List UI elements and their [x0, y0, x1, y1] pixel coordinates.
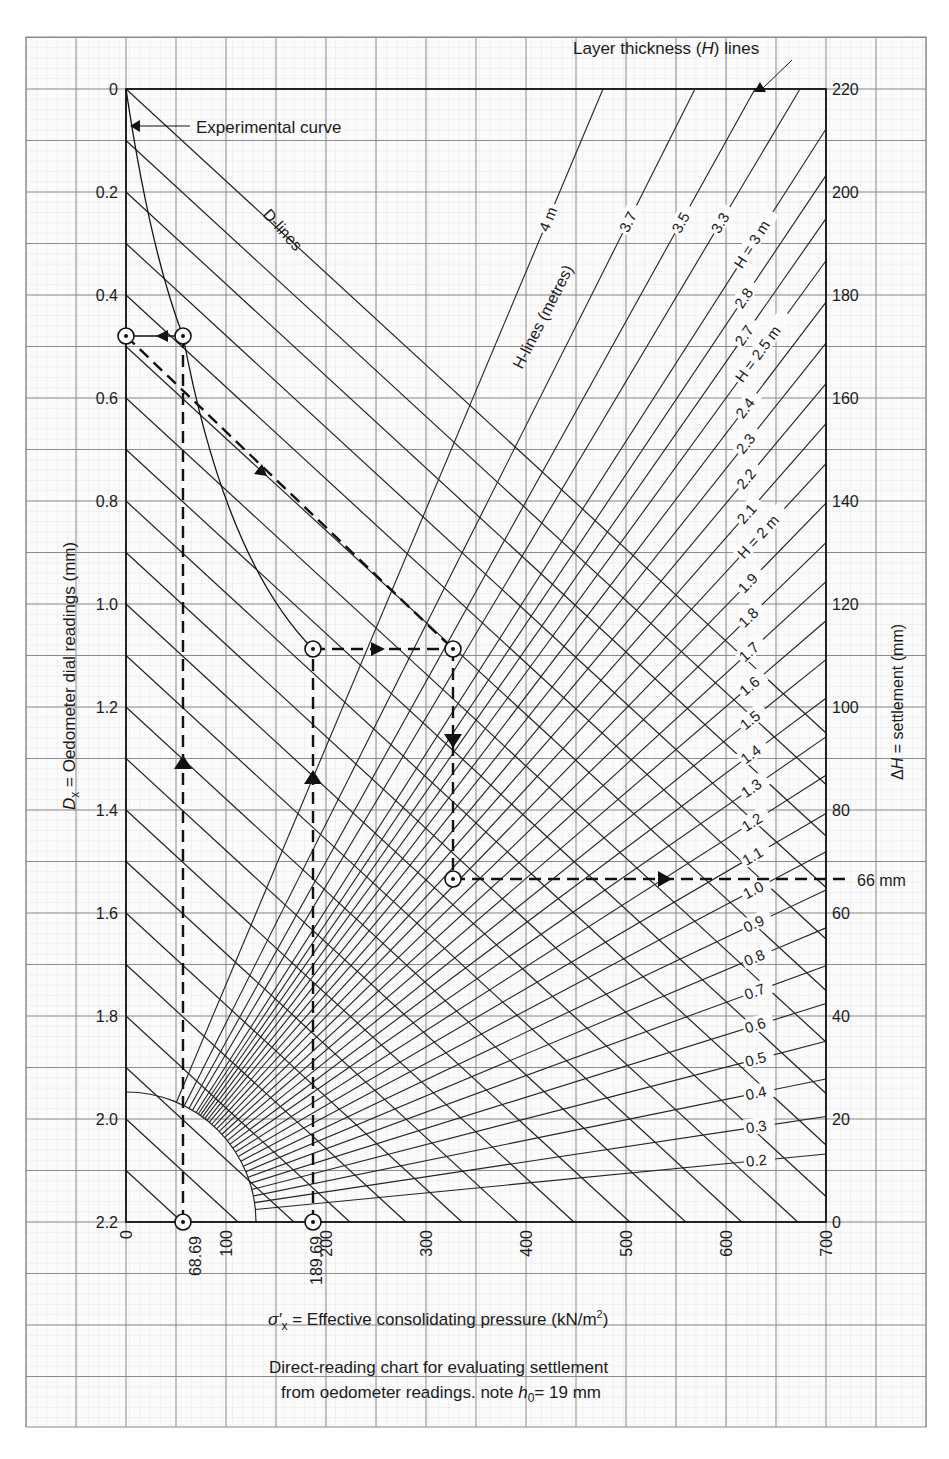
y-left-tick: 1.0 [96, 596, 118, 613]
y-left-tick: 1.2 [96, 699, 118, 716]
y-left-tick: 2.2 [96, 1214, 118, 1231]
y-axis-right-title: ΔH = settlement (mm) [889, 624, 906, 780]
y-left-tick: 0 [109, 81, 118, 98]
x-special-tick: 189.69 [308, 1236, 325, 1285]
y-right-tick: 180 [832, 287, 859, 304]
layer-thickness-label: Layer thickness (H) lines [573, 39, 759, 58]
graph-paper [26, 37, 926, 1427]
y-right-tick: 60 [832, 905, 850, 922]
x-tick: 500 [618, 1230, 635, 1257]
y-right-tick: 140 [832, 493, 859, 510]
experimental-curve-label: Experimental curve [196, 118, 342, 137]
y-axis-left-title: Dx = Oedometer dial readings (mm) [60, 542, 82, 810]
result-label: 66 mm [857, 872, 906, 889]
y-right-tick: 40 [832, 1008, 850, 1025]
caption-line-1: Direct-reading chart for evaluating sett… [269, 1358, 608, 1377]
x-tick: 300 [418, 1230, 435, 1257]
x-tick: 600 [718, 1230, 735, 1257]
y-right-tick: 80 [832, 802, 850, 819]
y-right-tick: 120 [832, 596, 859, 613]
y-left-tick: 1.4 [96, 802, 118, 819]
x-tick: 700 [818, 1230, 835, 1257]
y-left-tick: 2.0 [96, 1111, 118, 1128]
y-left-tick: 1.8 [96, 1008, 118, 1025]
h-line-label: 0.3 [745, 1117, 768, 1137]
y-left-tick: 0.2 [96, 184, 118, 201]
h-line-label: 0.2 [745, 1151, 767, 1170]
x-tick: 400 [518, 1230, 535, 1257]
y-right-tick: 20 [832, 1111, 850, 1128]
y-right-tick: 220 [832, 81, 859, 98]
y-right-tick: 0 [832, 1214, 841, 1231]
settlement-chart: 4 m3.73.53.3H = 3 m2.82.7H = 2.5 m2.42.3… [0, 0, 949, 1459]
y-right-tick: 100 [832, 699, 859, 716]
y-left-tick: 0.4 [96, 287, 118, 304]
y-right-tick: 200 [832, 184, 859, 201]
y-right-tick: 160 [832, 390, 859, 407]
y-left-tick: 0.6 [96, 390, 118, 407]
x-tick: 0 [118, 1230, 135, 1239]
x-special-tick: 68.69 [187, 1236, 204, 1276]
y-left-tick: 0.8 [96, 493, 118, 510]
y-left-tick: 1.6 [96, 905, 118, 922]
x-tick: 100 [218, 1230, 235, 1257]
caption-line-2: from oedometer readings. note h0= 19 mm [281, 1383, 601, 1405]
